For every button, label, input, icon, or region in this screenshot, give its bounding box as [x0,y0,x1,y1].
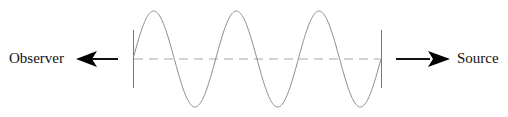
observer-arrow [76,51,118,67]
source-arrow [396,51,450,67]
wave-diagram [0,0,508,117]
